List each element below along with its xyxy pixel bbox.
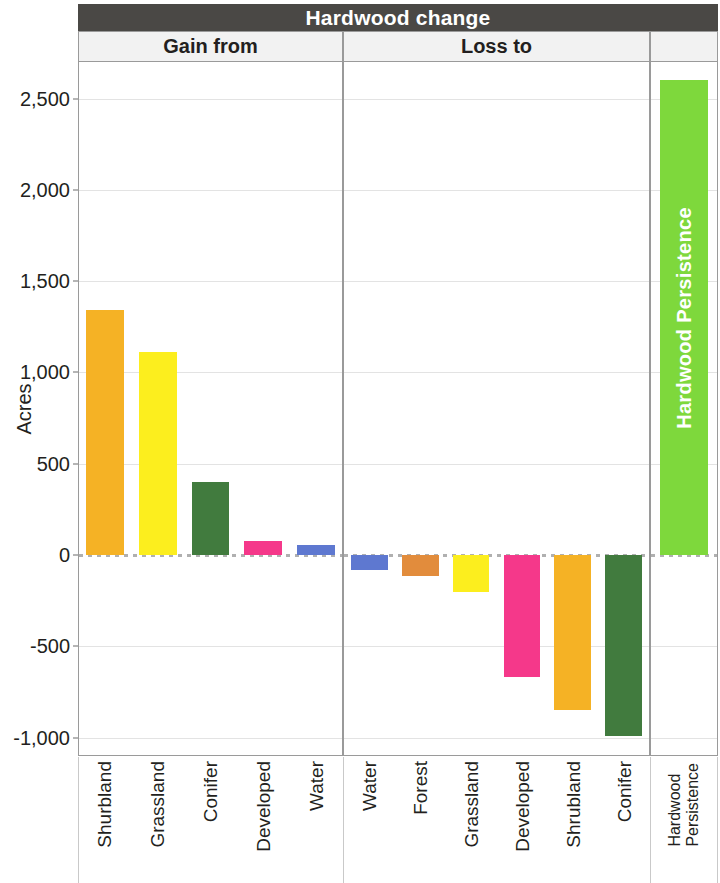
x-tick-label-line-1: Hardwood <box>666 763 684 847</box>
bar-slot: Hardwood Persistence <box>651 62 717 755</box>
bar-grassland[interactable] <box>139 352 177 555</box>
x-axis: ShurblandGrasslandConiferDevelopedWater … <box>78 757 718 883</box>
bar-developed[interactable] <box>504 555 541 676</box>
bar-slot <box>446 62 497 755</box>
x-label-slot: Shrubland <box>548 757 599 883</box>
x-tick-label-shurbland: Shurbland <box>94 761 116 848</box>
x-tick-label-shrubland: Shrubland <box>563 761 585 848</box>
x-label-slot: Grassland <box>132 757 185 883</box>
bar-grassland[interactable] <box>453 555 490 592</box>
bar-water[interactable] <box>351 555 388 570</box>
x-tick-label-line-2: Persistence <box>684 763 702 847</box>
facet-strip-loss: Loss to <box>343 31 650 62</box>
x-label-slot: Hardwood Persistence <box>651 757 717 883</box>
bar-shrubland[interactable] <box>554 555 591 710</box>
x-tick-label-developed: Developed <box>512 761 534 852</box>
y-tick-label: 500 <box>37 452 70 475</box>
x-label-slot: Developed <box>497 757 548 883</box>
bar-slot <box>496 62 547 755</box>
bar-slot <box>598 62 649 755</box>
y-tick-label: 1,000 <box>20 361 70 384</box>
x-label-slot: Water <box>344 757 395 883</box>
x-label-slot: Conifer <box>185 757 238 883</box>
bar-slot <box>344 62 395 755</box>
bar-developed[interactable] <box>244 541 282 555</box>
x-tick-label-hardwood-persistence: Hardwood Persistence <box>666 763 702 847</box>
x-label-slot: Grassland <box>446 757 497 883</box>
y-axis: Acres -1,000-50005001,0001,5002,0002,500 <box>0 62 78 756</box>
panel-gain-from <box>78 62 343 756</box>
bar-hardwood-persistence[interactable]: Hardwood Persistence <box>660 80 709 555</box>
chart-title: Hardwood change <box>78 4 718 31</box>
x-labels-loss-to: WaterForestGrasslandDevelopedShrublandCo… <box>343 757 650 883</box>
bar-slot <box>132 62 185 755</box>
x-tick-label-water: Water <box>359 761 381 811</box>
y-tick-label: 2,000 <box>20 178 70 201</box>
bar-slot <box>289 62 342 755</box>
x-tick-label-developed: Developed <box>253 761 275 852</box>
x-tick-label-grassland: Grassland <box>147 761 169 848</box>
bar-water[interactable] <box>297 545 335 555</box>
x-tick-label-forest: Forest <box>410 761 432 815</box>
bar-slot <box>395 62 446 755</box>
x-label-slot: Developed <box>237 757 290 883</box>
y-tick-label: -500 <box>30 635 70 658</box>
x-tick-label-grassland: Grassland <box>461 761 483 848</box>
x-label-slot: Conifer <box>599 757 650 883</box>
chart-figure: Hardwood change Gain from Loss to Acres … <box>0 0 720 883</box>
bar-forest[interactable] <box>402 555 439 576</box>
facet-strip-row: Gain from Loss to <box>78 31 718 62</box>
panel-hardwood-persistence: Hardwood Persistence <box>650 62 718 756</box>
y-tick-label: -1,000 <box>13 726 70 749</box>
x-label-slot: Shurbland <box>79 757 132 883</box>
bar-slot <box>547 62 598 755</box>
bar-conifer[interactable] <box>605 555 642 736</box>
bar-inline-label: Hardwood Persistence <box>672 207 695 429</box>
panel-loss-bars <box>344 62 649 755</box>
x-tick-label-conifer: Conifer <box>614 761 636 822</box>
panel-loss-to <box>343 62 650 756</box>
y-tick-label: 2,500 <box>20 87 70 110</box>
plot-panels: Hardwood Persistence <box>78 62 718 756</box>
x-labels-gain-from: ShurblandGrasslandConiferDevelopedWater <box>78 757 343 883</box>
x-label-slot: Water <box>290 757 343 883</box>
bar-conifer[interactable] <box>192 482 230 555</box>
facet-strip-persistence <box>650 31 718 62</box>
bar-shurbland[interactable] <box>86 310 124 555</box>
x-tick-label-water: Water <box>306 761 328 811</box>
x-labels-persistence: Hardwood Persistence <box>650 757 718 883</box>
bar-slot <box>79 62 132 755</box>
panel-persistence-bars: Hardwood Persistence <box>651 62 717 755</box>
panel-gain-bars <box>79 62 342 755</box>
facet-strip-gain: Gain from <box>78 31 343 62</box>
x-tick-label-conifer: Conifer <box>200 761 222 822</box>
y-tick-label: 1,500 <box>20 270 70 293</box>
x-label-slot: Forest <box>395 757 446 883</box>
bar-slot <box>184 62 237 755</box>
bar-slot <box>237 62 290 755</box>
y-tick-label: 0 <box>59 544 70 567</box>
